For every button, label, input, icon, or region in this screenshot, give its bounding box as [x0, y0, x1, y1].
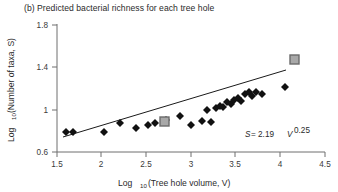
x-tick-label-3.5: 3.5: [229, 160, 241, 169]
equation-operator: = 2.19: [251, 130, 274, 139]
y-tick-label-1.4: 1.4: [37, 63, 49, 72]
data-point-diamond: [176, 112, 184, 120]
scatter-plot: 1.8 1.4 1 0.6 1.5 2 2.5 3 3.5 4 4.5 Log …: [0, 0, 338, 192]
x-axis-ticks: [57, 152, 325, 157]
x-tick-label-4.5: 4.5: [319, 160, 331, 169]
data-point-diamond: [144, 121, 152, 129]
y-axis-title-main: Log: [6, 127, 16, 142]
y-axis-title: Log 10 (Number of taxa, S): [6, 38, 17, 142]
data-point-diamond: [203, 106, 211, 114]
scatter-series-tree-holes: [62, 83, 289, 136]
y-axis-title-rest: (Number of taxa, S): [6, 38, 16, 113]
x-axis-title: Log 10 (Tree hole volume, V): [118, 178, 230, 189]
fit-line: [63, 70, 286, 137]
equation-variable: V: [287, 130, 294, 139]
data-point-diamond: [258, 90, 266, 98]
y-tick-label-0.6: 0.6: [37, 148, 49, 157]
data-point-diamond: [100, 128, 108, 136]
x-axis-title-rest: (Tree hole volume, V): [148, 178, 230, 188]
y-axis-ticks: [52, 25, 57, 152]
data-point-diamond: [207, 118, 215, 126]
data-point-square: [290, 55, 299, 64]
x-tick-label-3: 3: [189, 160, 194, 169]
data-point-square: [160, 117, 169, 126]
figure-panel: (b) Predicted bacterial richness for eac…: [0, 0, 338, 192]
x-axis-title-sub: 10: [140, 182, 147, 189]
x-tick-label-2.5: 2.5: [140, 160, 152, 169]
data-point-diamond: [281, 83, 289, 91]
y-tick-label-1: 1: [43, 106, 48, 115]
data-point-diamond: [198, 117, 206, 125]
data-point-diamond: [151, 119, 159, 127]
x-tick-label-2: 2: [99, 160, 104, 169]
y-tick-label-1.8: 1.8: [37, 21, 49, 30]
x-axis-title-main: Log: [118, 178, 133, 188]
x-tick-label-1.5: 1.5: [51, 160, 63, 169]
x-tick-label-4: 4: [278, 160, 283, 169]
equation-annotation: S = 2.19 V 0.25: [245, 126, 310, 139]
data-point-diamond: [132, 124, 140, 132]
equation-exponent: 0.25: [294, 126, 310, 135]
data-point-diamond: [187, 121, 195, 129]
